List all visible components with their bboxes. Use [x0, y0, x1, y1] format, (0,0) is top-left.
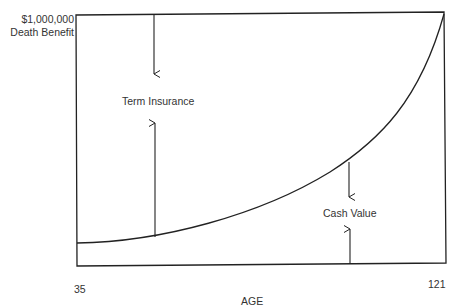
chart-frame	[76, 12, 446, 266]
cash-value-curve	[77, 14, 444, 243]
x-axis-title: AGE	[241, 295, 263, 307]
x-axis-start-label: 35	[74, 283, 86, 295]
x-axis-end-label: 121	[428, 278, 446, 290]
diagram-canvas	[0, 0, 457, 308]
cash-value-label: Cash Value	[323, 207, 377, 219]
term-insurance-label: Term Insurance	[122, 95, 194, 107]
